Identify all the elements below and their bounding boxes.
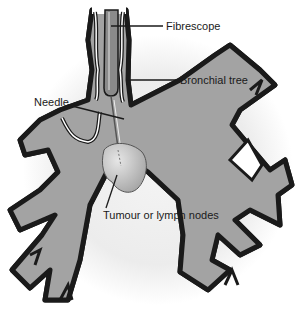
label-bronchial-tree: Bronchial tree [180,74,248,86]
fibrescope-shape [104,10,118,96]
label-tumour: Tumour or lymph nodes [103,209,219,221]
bronchoscopy-diagram: Fibrescope Bronchial tree Needle Tumour … [0,0,300,309]
label-fibrescope: Fibrescope [166,20,220,32]
diagram-illustration [0,0,300,309]
label-needle: Needle [34,96,69,108]
